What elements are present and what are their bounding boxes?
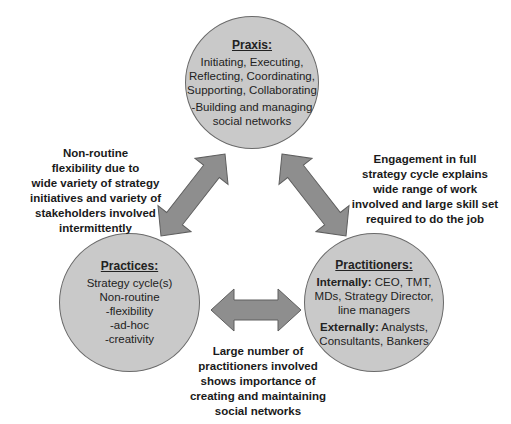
- practices-line: -creativity: [105, 332, 154, 346]
- note-line: involved and large skill set: [350, 197, 500, 212]
- practices-line: -flexibility: [106, 304, 153, 318]
- practitioners-internal-line: Internally: CEO, TMT,: [317, 275, 432, 289]
- note-line: social networks: [188, 404, 328, 419]
- practices-line: Strategy cycle(s): [87, 276, 173, 290]
- practitioners-line: Consultants, Bankers: [319, 334, 428, 348]
- praxis-circle: Praxis: Initiating, Executing, Reflectin…: [185, 16, 319, 149]
- external-text: Analysts,: [379, 321, 428, 333]
- note-bottom: Large number of practitioners involved s…: [188, 344, 328, 419]
- double-arrow-practices-practitioners: [211, 289, 301, 331]
- note-line: practitioners involved: [188, 359, 328, 374]
- external-label: Externally:: [320, 321, 379, 333]
- praxis-line: Initiating, Executing,: [201, 55, 304, 69]
- note-line: Engagement in full: [350, 152, 500, 167]
- note-left: Non-routine flexibility due to wide vari…: [18, 146, 173, 236]
- note-line: intermittently: [18, 221, 173, 236]
- note-line: Non-routine: [18, 146, 173, 161]
- note-line: creating and maintaining: [188, 389, 328, 404]
- note-line: Large number of: [188, 344, 328, 359]
- praxis-line: Supporting, Collaborating: [187, 83, 317, 97]
- internal-text: CEO, TMT,: [372, 276, 432, 288]
- note-line: initiatives and variety of: [18, 191, 173, 206]
- practices-line: -ad-hoc: [110, 318, 149, 332]
- note-right: Engagement in full strategy cycle explai…: [350, 152, 500, 227]
- note-line: strategy cycle explains: [350, 167, 500, 182]
- internal-label: Internally:: [317, 276, 372, 288]
- practitioners-line: MDs, Strategy Director,: [315, 289, 434, 303]
- double-arrow-praxis-practitioners: [265, 141, 362, 249]
- praxis-line: social networks: [213, 114, 292, 128]
- practitioners-line: line managers: [338, 303, 410, 317]
- praxis-line: Reflecting, Coordinating,: [189, 69, 315, 83]
- note-line: required to do the job: [350, 212, 500, 227]
- praxis-line: -Building and managing: [192, 100, 313, 114]
- note-line: wide variety of strategy: [18, 176, 173, 191]
- practices-circle: Practices: Strategy cycle(s) Non-routine…: [59, 233, 200, 372]
- practitioners-external-line: Externally: Analysts,: [320, 320, 428, 334]
- praxis-title: Praxis:: [232, 38, 272, 52]
- note-line: flexibility due to: [18, 161, 173, 176]
- practices-line: Non-routine: [99, 290, 159, 304]
- practitioners-title: Practitioners:: [335, 258, 412, 272]
- note-line: shows importance of: [188, 374, 328, 389]
- note-line: stakeholders involved: [18, 206, 173, 221]
- diagram-canvas: Praxis: Initiating, Executing, Reflectin…: [0, 0, 511, 424]
- practices-title: Practices:: [101, 259, 158, 273]
- note-line: wide range of work: [350, 182, 500, 197]
